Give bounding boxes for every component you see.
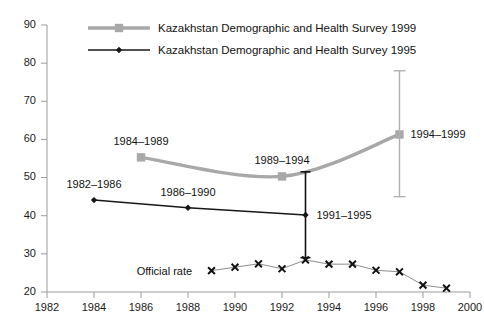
point-label-1: 1989–1994 [254,154,309,166]
y-axis-tick-label: 20 [24,285,36,297]
y-axis-ticks: 2030405060708090 [24,18,47,297]
x-axis-tick-label: 1996 [364,301,388,313]
x-axis-tick-label: 1982 [35,301,59,313]
x-axis-tick-label: 1988 [176,301,200,313]
y-axis-tick-label: 90 [24,18,36,30]
legend-marker-diamond-1 [116,47,122,53]
point-label-2: 1994–1999 [411,128,466,140]
series-line-1 [94,200,306,215]
point-label-4: 1986–1990 [160,186,215,198]
data-point-marker-diamond [91,197,97,203]
line-chart: 2030405060708090 19821984198619881990199… [0,0,484,331]
point-label-5: 1991–1995 [317,209,372,221]
y-axis-tick-label: 40 [24,209,36,221]
legend-label-1: Kazakhstan Demographic and Health Survey… [158,44,416,56]
chart-container: 2030405060708090 19821984198619881990199… [0,0,484,331]
error-bars-group [301,71,406,258]
point-label-0: 1984–1989 [113,135,168,147]
data-point-marker-diamond [185,205,191,211]
legend-label-0: Kazakhstan Demographic and Health Survey… [158,22,416,34]
chart-legend: Kazakhstan Demographic and Health Survey… [88,22,416,56]
x-axis-tick-label: 2000 [458,301,482,313]
x-axis-tick-label: 1984 [82,301,106,313]
x-axis-tick-label: 1986 [129,301,153,313]
legend-marker-square-0 [115,24,123,32]
data-point-marker-square [278,172,286,180]
point-label-6: Official rate [137,265,192,277]
x-axis-tick-label: 1998 [411,301,435,313]
y-axis-tick-label: 60 [24,132,36,144]
x-axis-tick-label: 1992 [270,301,294,313]
y-axis-tick-label: 70 [24,94,36,106]
point-label-3: 1982–1986 [66,178,121,190]
x-axis-tick-label: 1990 [223,301,247,313]
y-axis-tick-label: 50 [24,170,36,182]
y-axis-tick-label: 30 [24,247,36,259]
data-point-marker-square [137,153,145,161]
x-axis-ticks: 1982198419861988199019921994199619982000 [35,292,482,313]
x-axis-tick-label: 1994 [317,301,341,313]
y-axis-tick-label: 80 [24,56,36,68]
